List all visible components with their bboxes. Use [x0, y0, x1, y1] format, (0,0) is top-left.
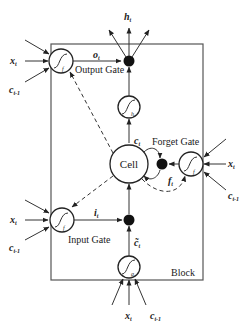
output-gate-label: Output Gate: [75, 64, 125, 75]
candidate-x-label: xt: [124, 310, 132, 322]
forget-gate-x-label: xt: [227, 158, 235, 170]
candidate-input-arrow-left: [112, 279, 123, 305]
output-gate-signal-label: ot: [93, 49, 100, 61]
forget-gate-input-arrow-c: [204, 172, 226, 190]
lstm-diagram: Block xt ct-1 f ot Output Gate ht h ct C…: [0, 0, 250, 334]
output-gate-input-arrow-c: [25, 68, 49, 82]
cell-output-activation-label: h: [131, 111, 134, 117]
forget-gate-label: Forget Gate: [152, 136, 200, 147]
cell-output-activation-circle: [118, 96, 140, 118]
output-gate: xt ct-1 f ot Output Gate: [9, 40, 125, 96]
candidate-activation-circle: [118, 256, 140, 278]
forget-gate-input-arrow-top: [204, 139, 226, 157]
candidate-activation-label: g: [131, 271, 134, 277]
forget-gate-circle: [179, 152, 203, 176]
cell-state-label: ct: [134, 135, 140, 147]
block-label: Block: [171, 267, 195, 278]
forget-gate-cprev-label: ct-1: [228, 190, 239, 202]
input-gate-input-arrow-top: [25, 200, 49, 213]
peephole-to-input-gate: [72, 176, 113, 207]
input-gate-circle: [50, 208, 74, 232]
candidate-cprev-label: ct-1: [150, 310, 161, 322]
input-gate-signal-label: it: [94, 207, 99, 219]
output-gate-input-arrow-top: [25, 40, 49, 54]
output-multiplier: [124, 56, 135, 67]
input-multiplier: [124, 215, 135, 226]
peephole-to-output-gate: [70, 72, 113, 153]
output-gate-x-label: xt: [9, 55, 17, 67]
input-gate-label: Input Gate: [68, 234, 111, 245]
forget-multiplier: [157, 159, 168, 170]
input-gate-cprev-label: ct-1: [9, 242, 20, 254]
output-gate-cprev-label: ct-1: [9, 84, 20, 96]
input-gate: xt ct-1 f it Input Gate: [9, 200, 122, 254]
cell-label: Cell: [120, 158, 138, 170]
input-gate-input-arrow-c: [25, 227, 49, 240]
forget-gate: f ft Forget Gate xt ct-1: [152, 136, 239, 202]
candidate-signal-label: c̃t: [134, 237, 140, 249]
input-gate-x-label: xt: [9, 214, 17, 226]
candidate-input-arrow-c: [135, 279, 146, 305]
output-gate-circle: [49, 49, 73, 73]
output-h-label: ht: [124, 11, 132, 23]
forget-gate-signal-label: ft: [168, 175, 173, 187]
